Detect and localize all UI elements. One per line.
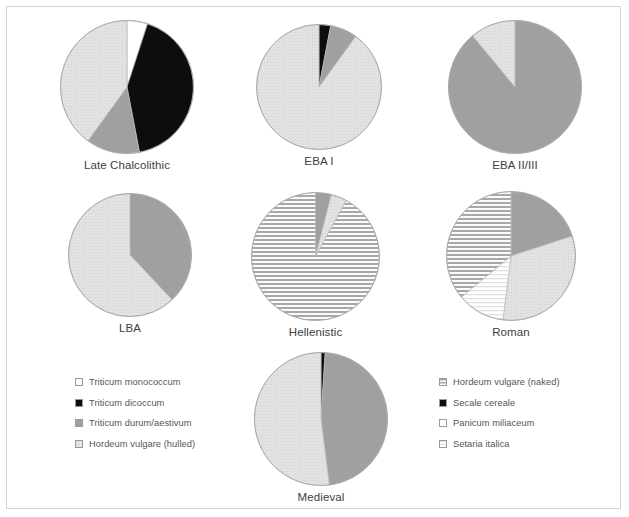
legend-swatch-icon (439, 399, 447, 407)
figure-frame: Late Chalcolithic EBA I EBA II/III LBA H… (6, 6, 621, 509)
pie-slice (321, 353, 388, 485)
chart-title: Late Chalcolithic (59, 159, 195, 171)
pie-svg (67, 192, 193, 318)
pie-chart-medieval: Medieval (253, 351, 389, 503)
pie-chart-eba-ii-iii: EBA II/III (447, 19, 583, 171)
crop-legend-left: Triticum monococcumTriticum dicoccumTrit… (75, 377, 195, 459)
legend-label: Triticum monococcum (89, 377, 181, 387)
pie-lba (67, 192, 193, 318)
pie-chart-roman: Roman (445, 190, 577, 338)
pie-slice (255, 353, 330, 486)
pie-slice (256, 24, 381, 149)
chart-title: EBA II/III (447, 159, 583, 171)
pie-hellenistic (250, 191, 381, 322)
legend-swatch-icon (75, 419, 83, 427)
pie-late-chalcolithic (59, 19, 195, 155)
pie-svg (253, 351, 389, 487)
pie-eba-i (255, 23, 383, 151)
legend-item[interactable]: Triticum dicoccum (75, 398, 195, 408)
legend-swatch-icon (75, 440, 83, 448)
legend-label: Panicum miliaceum (453, 418, 534, 428)
chart-title: Medieval (253, 491, 389, 503)
pie-svg (447, 19, 583, 155)
chart-title: Hellenistic (250, 326, 381, 338)
legend-swatch-icon (75, 399, 83, 407)
legend-label: Setaria italica (453, 439, 510, 449)
legend-item[interactable]: Panicum miliaceum (439, 418, 560, 428)
pie-slice (251, 193, 379, 321)
pie-roman (445, 190, 577, 322)
legend-swatch-icon (439, 440, 447, 448)
chart-title: Roman (445, 326, 577, 338)
legend-item[interactable]: Secale cereale (439, 398, 560, 408)
chart-title: EBA I (255, 155, 383, 167)
pie-chart-hellenistic: Hellenistic (250, 191, 381, 338)
legend-item[interactable]: Setaria italica (439, 439, 560, 449)
legend-swatch-icon (75, 378, 83, 386)
pie-svg (250, 191, 381, 322)
legend-item[interactable]: Triticum monococcum (75, 377, 195, 387)
legend-item[interactable]: Hordeum vulgare (hulled) (75, 439, 195, 449)
legend-label: Hordeum vulgare (hulled) (89, 439, 195, 449)
pie-chart-eba-i: EBA I (255, 23, 383, 167)
pie-svg (59, 19, 195, 155)
legend-item[interactable]: Triticum durum/aestivum (75, 418, 195, 428)
legend-label: Hordeum vulgare (naked) (453, 377, 560, 387)
legend-label: Triticum durum/aestivum (89, 418, 192, 428)
pie-medieval (253, 351, 389, 487)
pie-svg (255, 23, 383, 151)
legend-swatch-icon (439, 419, 447, 427)
pie-svg (445, 190, 577, 322)
pie-eba-ii-iii (447, 19, 583, 155)
crop-legend-right: Hordeum vulgare (naked)Secale cerealePan… (439, 377, 560, 459)
legend-item[interactable]: Hordeum vulgare (naked) (439, 377, 560, 387)
pie-chart-lba: LBA (67, 192, 193, 334)
legend-swatch-icon (439, 378, 447, 386)
legend-label: Triticum dicoccum (89, 398, 164, 408)
legend-label: Secale cereale (453, 398, 515, 408)
chart-title: LBA (67, 322, 193, 334)
pie-chart-late-chalcolithic: Late Chalcolithic (59, 19, 195, 171)
